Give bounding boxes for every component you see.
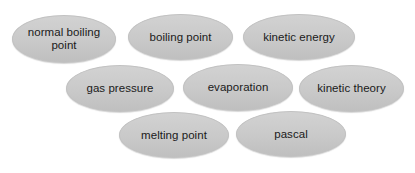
term-oval-label: evaporation [200, 81, 277, 94]
term-oval[interactable]: gas pressure [66, 65, 174, 112]
term-oval[interactable]: pascal [236, 111, 346, 157]
term-oval-label: kinetic energy [255, 31, 343, 44]
term-oval-label: pascal [266, 128, 316, 141]
term-oval-label: gas pressure [78, 82, 161, 95]
term-oval[interactable]: kinetic theory [299, 65, 404, 112]
term-oval-label: normal boiling point [20, 26, 108, 52]
term-oval[interactable]: melting point [119, 112, 229, 158]
term-oval-label: melting point [133, 129, 215, 142]
oval-term-diagram: normal boiling pointboiling pointkinetic… [0, 0, 415, 173]
term-oval[interactable]: evaporation [183, 64, 293, 111]
term-oval-label: boiling point [141, 31, 219, 44]
term-oval[interactable]: boiling point [128, 14, 233, 60]
term-oval[interactable]: normal boiling point [12, 15, 116, 63]
term-oval[interactable]: kinetic energy [243, 14, 355, 60]
term-oval-label: kinetic theory [309, 82, 393, 95]
